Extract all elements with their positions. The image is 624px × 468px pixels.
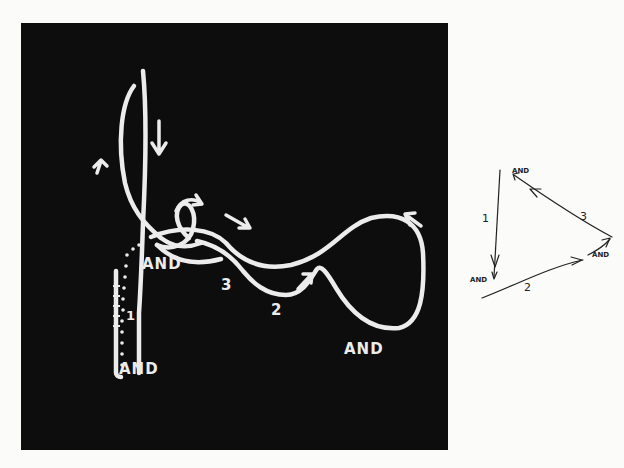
label-and-upper-left: AND — [142, 255, 182, 273]
schematic-label-and-left: AND — [470, 276, 487, 284]
label-and-bottom-left: AND — [119, 360, 159, 378]
looping-path-drawing — [21, 23, 448, 450]
triangle-path-drawing — [470, 155, 620, 305]
arrow-down-icon — [152, 121, 166, 154]
label-and-bottom-right: AND — [344, 340, 384, 358]
schematic-label-edge-3: 3 — [580, 210, 587, 223]
label-number-3: 3 — [221, 276, 232, 294]
schematic-label-and-right: AND — [592, 251, 609, 259]
chalkboard-panel: AND AND AND 1 2 3 — [21, 23, 448, 450]
label-number-1: 1 — [126, 308, 136, 323]
schematic-label-edge-1: 1 — [482, 212, 489, 225]
schematic-label-and-top: AND — [512, 167, 529, 175]
triangle-schematic: AND AND AND 1 2 3 — [470, 155, 620, 305]
schematic-label-edge-2: 2 — [524, 281, 531, 294]
label-number-2: 2 — [271, 301, 282, 319]
